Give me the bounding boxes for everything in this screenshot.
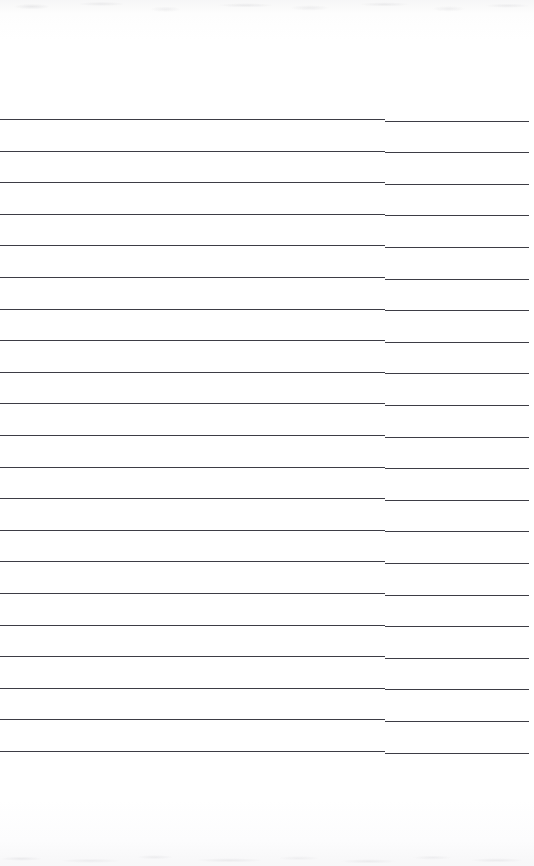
rule-line-right-segment (385, 405, 529, 406)
rule-line-right-segment (385, 215, 529, 216)
rule-line (0, 530, 385, 531)
ruled-writing-area (0, 0, 534, 866)
rule-line-right-segment (385, 437, 529, 438)
rule-line-right-segment (385, 689, 529, 690)
rule-line (0, 277, 385, 278)
rule-line (0, 372, 385, 373)
rule-line (0, 182, 385, 183)
rule-line (0, 119, 385, 120)
rule-line (0, 656, 385, 657)
rule-line (0, 719, 385, 720)
rule-line-right-segment (385, 342, 529, 343)
rule-line (0, 593, 385, 594)
rule-line (0, 214, 385, 215)
rule-line-right-segment (385, 247, 529, 248)
rule-line (0, 751, 385, 752)
rule-line (0, 435, 385, 436)
rule-line-right-segment (385, 500, 529, 501)
rule-line-right-segment (385, 310, 529, 311)
rule-line (0, 151, 385, 152)
rule-line-right-segment (385, 121, 529, 122)
page-footer-margin (0, 754, 534, 866)
rule-line (0, 561, 385, 562)
rule-line (0, 340, 385, 341)
scanned-page (0, 0, 534, 866)
rule-line-right-segment (385, 626, 529, 627)
rule-line-right-segment (385, 373, 529, 374)
rule-line-right-segment (385, 279, 529, 280)
rule-line-right-segment (385, 531, 529, 532)
rule-line-right-segment (385, 595, 529, 596)
rule-line (0, 498, 385, 499)
rule-line-right-segment (385, 563, 529, 564)
rule-line-right-segment (385, 658, 529, 659)
rule-line (0, 403, 385, 404)
rule-line-right-segment (385, 468, 529, 469)
rule-line (0, 245, 385, 246)
rule-line (0, 309, 385, 310)
rule-line (0, 625, 385, 626)
rule-line-right-segment (385, 721, 529, 722)
rule-line (0, 688, 385, 689)
rule-line (0, 467, 385, 468)
rule-line-right-segment (385, 152, 529, 153)
rule-line-right-segment (385, 184, 529, 185)
